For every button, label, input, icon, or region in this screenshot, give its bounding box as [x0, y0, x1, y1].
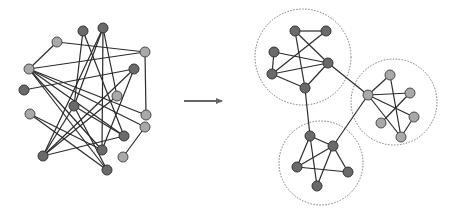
graph-node-light: [141, 110, 151, 120]
graph-edge: [297, 146, 333, 167]
graph-edge: [310, 136, 317, 186]
clustering-diagram: Graph clustering: tangled graph to commu…: [0, 0, 454, 223]
graph-node-dark: [38, 151, 48, 161]
graph-node-light: [376, 118, 386, 128]
graph-node-dark: [267, 69, 277, 79]
graph-node-light: [396, 132, 406, 142]
graph-node-light: [385, 70, 395, 80]
graph-edge: [317, 146, 333, 186]
graph-node-light: [140, 47, 150, 57]
graph-node-dark: [269, 47, 279, 57]
graph-edge: [102, 28, 103, 150]
graph-node-dark: [292, 162, 302, 172]
graph-node-dark: [290, 26, 300, 36]
graph-edge: [57, 42, 145, 52]
graph-edge: [328, 63, 368, 95]
graph-edge: [103, 28, 117, 96]
graph-node-light: [112, 91, 122, 101]
graph-node-dark: [119, 131, 129, 141]
graph-node-light: [405, 88, 415, 98]
graph-node-dark: [328, 141, 338, 151]
graph-node-light: [24, 64, 34, 74]
diagram-canvas: Graph clustering: tangled graph to commu…: [0, 0, 454, 223]
graph-node-dark: [321, 26, 331, 36]
graph-edge: [24, 69, 134, 90]
graph-node-dark: [102, 165, 112, 175]
graph-edge: [29, 52, 145, 69]
graph-node-dark: [97, 145, 107, 155]
graph-node-dark: [323, 58, 333, 68]
graph-node-dark: [19, 85, 29, 95]
graph-node-dark: [98, 23, 108, 33]
graph-edge: [145, 52, 146, 115]
graph-node-dark: [129, 64, 139, 74]
graph-edge: [305, 88, 310, 136]
cluster-bottom: [279, 121, 363, 205]
graph-node-dark: [343, 167, 353, 177]
graph-node-light: [363, 90, 373, 100]
tangled-graph: [19, 23, 151, 175]
graph-edge: [274, 52, 328, 63]
graph-node-light: [409, 112, 419, 122]
tangled-graph-edges: [24, 28, 146, 170]
graph-edge: [333, 95, 368, 146]
graph-edge: [368, 95, 414, 117]
tangled-graph-nodes: [19, 23, 151, 175]
clustered-graph-edges: [272, 31, 414, 186]
clustered-graph: [255, 9, 437, 205]
graph-node-dark: [300, 83, 310, 93]
graph-edge: [368, 93, 410, 95]
graph-node-dark: [305, 131, 315, 141]
graph-node-light: [52, 37, 62, 47]
graph-node-light: [140, 122, 150, 132]
graph-node-dark: [78, 26, 88, 36]
graph-edge: [368, 95, 401, 137]
graph-node-dark: [69, 101, 79, 111]
graph-node-dark: [312, 181, 322, 191]
graph-node-light: [118, 152, 128, 162]
graph-edge: [381, 93, 410, 123]
graph-node-light: [25, 109, 35, 119]
